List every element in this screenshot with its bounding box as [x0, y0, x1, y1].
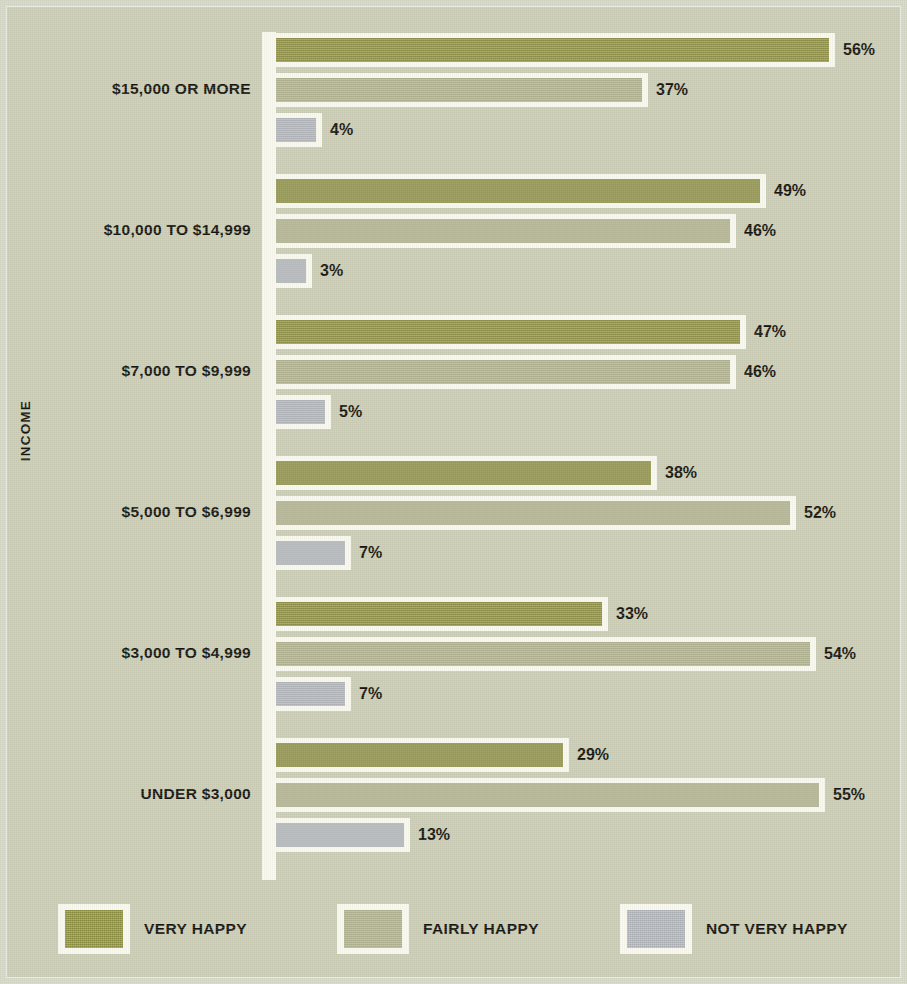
bar-fairly-happy [276, 501, 790, 525]
bar-very-happy [276, 602, 602, 626]
bar-outline [270, 496, 796, 530]
bar-fairly-happy [276, 642, 810, 666]
not-very-happy-swatch [627, 910, 685, 948]
bar-not-very-happy [276, 541, 345, 565]
bar-value-label: 7% [359, 536, 382, 570]
bar-outline [270, 677, 351, 711]
category-group: $10,000 TO $14,99949%46%3% [0, 174, 907, 288]
legend-swatch-outline [337, 904, 409, 954]
bar-outline [270, 73, 648, 107]
bar-outline [270, 355, 736, 389]
bar-value-label: 54% [824, 637, 856, 671]
category-group: $7,000 TO $9,99947%46%5% [0, 315, 907, 429]
bar-outline [270, 818, 410, 852]
bar-value-label: 55% [833, 778, 865, 812]
bar-value-label: 47% [754, 315, 786, 349]
category-group: UNDER $3,00029%55%13% [0, 738, 907, 852]
bar-not-very-happy [276, 823, 404, 847]
category-group: $15,000 OR MORE56%37%4% [0, 33, 907, 147]
category-label: $10,000 TO $14,999 [0, 221, 251, 239]
bar-outline [270, 254, 312, 288]
category-label: $5,000 TO $6,999 [0, 503, 251, 521]
bar-value-label: 5% [339, 395, 362, 429]
bar-fairly-happy [276, 78, 642, 102]
bar-outline [270, 174, 766, 208]
bar-outline [270, 214, 736, 248]
bar-value-label: 49% [774, 174, 806, 208]
bar-outline [270, 778, 825, 812]
bar-very-happy [276, 743, 563, 767]
bar-very-happy [276, 38, 829, 62]
bar-not-very-happy [276, 682, 345, 706]
fairly-happy-swatch [344, 910, 402, 948]
legend-swatch-outline [58, 904, 130, 954]
bar-not-very-happy [276, 118, 316, 142]
bar-value-label: 52% [804, 496, 836, 530]
category-label: UNDER $3,000 [0, 785, 251, 803]
bar-value-label: 29% [577, 738, 609, 772]
bar-not-very-happy [276, 259, 306, 283]
very-happy-swatch [65, 910, 123, 948]
bar-value-label: 33% [616, 597, 648, 631]
category-label: $15,000 OR MORE [0, 80, 251, 98]
legend-item[interactable]: VERY HAPPY [58, 898, 247, 960]
category-group: $5,000 TO $6,99938%52%7% [0, 456, 907, 570]
bar-very-happy [276, 179, 760, 203]
y-axis-title: INCOME [18, 400, 33, 461]
bar-value-label: 4% [330, 113, 353, 147]
bar-outline [270, 738, 569, 772]
bar-fairly-happy [276, 360, 730, 384]
bar-value-label: 46% [744, 355, 776, 389]
bar-value-label: 7% [359, 677, 382, 711]
bar-value-label: 13% [418, 818, 450, 852]
legend-item[interactable]: FAIRLY HAPPY [337, 898, 539, 960]
bar-outline [270, 395, 331, 429]
bar-outline [270, 637, 816, 671]
bar-outline [270, 597, 608, 631]
bar-fairly-happy [276, 219, 730, 243]
bar-value-label: 37% [656, 73, 688, 107]
legend-label: NOT VERY HAPPY [706, 920, 848, 938]
bar-value-label: 38% [665, 456, 697, 490]
bar-outline [270, 456, 657, 490]
happiness-by-income-chart: INCOME $15,000 OR MORE56%37%4%$10,000 TO… [0, 0, 907, 984]
category-label: $7,000 TO $9,999 [0, 362, 251, 380]
legend-label: FAIRLY HAPPY [423, 920, 539, 938]
bar-outline [270, 315, 746, 349]
legend-item[interactable]: NOT VERY HAPPY [620, 898, 848, 960]
category-label: $3,000 TO $4,999 [0, 644, 251, 662]
bar-very-happy [276, 461, 651, 485]
chart-legend: VERY HAPPYFAIRLY HAPPYNOT VERY HAPPY [0, 898, 907, 960]
bar-not-very-happy [276, 400, 325, 424]
bar-value-label: 3% [320, 254, 343, 288]
bar-outline [270, 536, 351, 570]
bar-value-label: 46% [744, 214, 776, 248]
legend-swatch-outline [620, 904, 692, 954]
bar-value-label: 56% [843, 33, 875, 67]
bar-outline [270, 113, 322, 147]
bar-fairly-happy [276, 783, 819, 807]
category-group: $3,000 TO $4,99933%54%7% [0, 597, 907, 711]
legend-label: VERY HAPPY [144, 920, 247, 938]
bar-very-happy [276, 320, 740, 344]
bar-outline [270, 33, 835, 67]
plot-area: $15,000 OR MORE56%37%4%$10,000 TO $14,99… [0, 0, 907, 984]
